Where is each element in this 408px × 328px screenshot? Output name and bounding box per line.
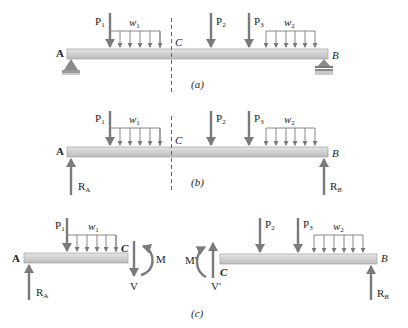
label-C: C	[175, 36, 183, 48]
caption-a: (a)	[191, 78, 204, 91]
moment-m-prime-arrow	[197, 247, 206, 277]
label-w2: w2	[333, 220, 344, 234]
label-P3: P3	[254, 15, 264, 29]
distributed-load-w1	[68, 235, 116, 252]
label-w1: w1	[88, 220, 99, 234]
distributed-load-w2	[314, 235, 363, 252]
distributed-load-w1	[111, 31, 160, 48]
label-P1: P1	[95, 112, 105, 126]
label-A: A	[56, 145, 64, 157]
label-V: V	[130, 280, 138, 292]
beam	[67, 147, 328, 157]
label-C: C	[121, 242, 129, 254]
left-free-body: A C P1 w1 RA V M	[12, 218, 166, 300]
label-A: A	[56, 47, 64, 59]
label-M-prime: M'	[185, 254, 197, 266]
label-P1: P1	[95, 15, 105, 29]
label-P2: P2	[265, 218, 275, 232]
label-B: B	[332, 147, 339, 159]
label-w2: w2	[284, 113, 295, 127]
label-P3: P3	[303, 218, 313, 232]
label-RB: RB	[330, 180, 342, 194]
label-w2: w2	[284, 16, 295, 30]
label-C: C	[220, 266, 228, 278]
caption-c: (c)	[191, 307, 204, 320]
label-RA: RA	[78, 180, 90, 194]
beam	[67, 49, 328, 59]
panel-a: A B C P1 w1 P2 P3 w2 (a)	[56, 13, 339, 92]
pin-support-icon	[62, 59, 80, 75]
beam-diagram: A B C P1 w1 P2 P3 w2 (a)	[0, 0, 408, 328]
beam-segment-CB	[220, 254, 377, 264]
label-RB: RB	[377, 287, 389, 301]
label-C: C	[175, 134, 183, 146]
label-P2: P2	[216, 15, 226, 29]
panel-b: A B C P1 w1 P2 P3 w2 RA RB (b)	[56, 111, 342, 195]
panel-c: A C P1 w1 RA V M M'	[12, 218, 389, 320]
label-V-prime: V'	[211, 280, 221, 292]
distributed-load-w1	[111, 128, 160, 146]
label-P1: P1	[55, 219, 65, 233]
label-RA: RA	[36, 286, 48, 300]
beam-segment-AC	[24, 253, 128, 263]
label-B: B	[332, 49, 339, 61]
roller-support-icon	[315, 59, 333, 75]
label-w1: w1	[129, 16, 140, 30]
label-P2: P2	[216, 112, 226, 126]
distributed-load-w2	[266, 31, 315, 47]
label-P3: P3	[254, 112, 264, 126]
moment-m-arrow	[141, 246, 153, 275]
label-w1: w1	[129, 113, 140, 127]
distributed-load-w2	[266, 128, 315, 145]
caption-b: (b)	[191, 176, 204, 189]
label-A: A	[12, 252, 20, 264]
label-B: B	[381, 252, 388, 264]
label-M: M	[156, 253, 166, 265]
right-free-body: M' V' C B P2 P3 w2 RB	[185, 218, 389, 301]
